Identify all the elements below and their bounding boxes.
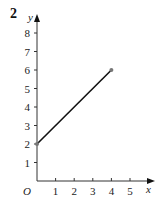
y-tick-label: 4 [25, 101, 31, 113]
y-tick-label: 3 [25, 120, 31, 132]
x-tick-label: 1 [53, 185, 59, 197]
y-tick-label: 8 [25, 27, 31, 39]
x-tick-label: 5 [127, 185, 133, 197]
x-axis-label: x [145, 183, 151, 195]
y-axis-label: y [27, 11, 33, 23]
y-tick-label: 6 [25, 64, 31, 76]
x-tick-label: 4 [109, 185, 115, 197]
x-tick-label: 2 [71, 185, 77, 197]
y-tick-label: 1 [25, 157, 31, 169]
origin-label: O [23, 185, 31, 197]
y-tick-label: 5 [25, 83, 31, 95]
y-axis-arrow-icon [34, 14, 40, 22]
line-segment [37, 70, 111, 144]
line-chart: 1234512345678Oxy [0, 0, 158, 206]
y-tick-label: 7 [25, 46, 31, 58]
endpoint-dot [109, 68, 113, 72]
endpoint-dot [35, 142, 39, 146]
y-tick-label: 2 [25, 138, 31, 150]
x-tick-label: 3 [90, 185, 96, 197]
